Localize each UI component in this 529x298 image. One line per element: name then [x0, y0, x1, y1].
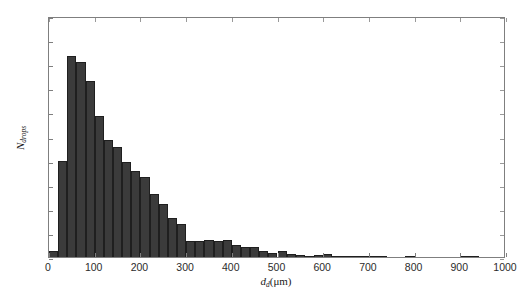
x-tick-mark — [232, 253, 233, 257]
histogram-bar — [360, 256, 369, 257]
histogram-bar — [305, 256, 314, 257]
y-tick-mark — [49, 18, 53, 19]
histogram-bar — [268, 253, 277, 257]
histogram-figure: 050100150200250300350400450500 010020030… — [0, 0, 529, 298]
histogram-bar — [460, 256, 469, 257]
x-tick-mark — [506, 253, 507, 257]
x-tick-mark-top — [186, 18, 187, 22]
x-tick-label: 600 — [313, 261, 331, 273]
y-tick-mark-right — [500, 66, 504, 67]
y-tick-mark-right — [500, 187, 504, 188]
histogram-bar — [58, 161, 67, 257]
histogram-bar — [49, 251, 58, 257]
x-tick-label: 500 — [268, 261, 286, 273]
x-tick-label: 1000 — [493, 261, 516, 273]
histogram-bars — [49, 18, 504, 257]
y-tick-mark — [49, 114, 53, 115]
y-tick-mark-right — [500, 90, 504, 91]
y-tick-mark-right — [500, 211, 504, 212]
x-tick-label: 800 — [405, 261, 423, 273]
y-axis-label-sub: drops — [19, 126, 28, 143]
histogram-bar — [86, 81, 95, 257]
histogram-bar — [214, 241, 223, 257]
histogram-bar — [186, 241, 195, 257]
x-tick-mark — [369, 253, 370, 257]
x-tick-label: 300 — [176, 261, 194, 273]
y-tick-mark-right — [500, 235, 504, 236]
histogram-bar — [223, 240, 232, 257]
histogram-bar — [378, 256, 387, 257]
x-tick-label: 900 — [451, 261, 469, 273]
x-tick-mark — [140, 253, 141, 257]
histogram-bar — [204, 240, 213, 257]
x-tick-label: 700 — [359, 261, 377, 273]
histogram-bar — [259, 251, 268, 257]
histogram-bar — [76, 62, 85, 257]
y-tick-mark — [49, 259, 53, 260]
y-tick-mark-right — [500, 18, 504, 19]
x-tick-label: 400 — [222, 261, 240, 273]
histogram-bar — [250, 247, 259, 257]
x-tick-mark-top — [460, 18, 461, 22]
x-tick-mark — [460, 253, 461, 257]
x-tick-mark — [415, 253, 416, 257]
histogram-bar — [314, 255, 323, 257]
y-tick-mark — [49, 211, 53, 212]
x-tick-mark — [95, 253, 96, 257]
x-tick-mark-top — [506, 18, 507, 22]
y-tick-mark-right — [500, 42, 504, 43]
histogram-bar — [241, 247, 250, 257]
histogram-bar — [351, 256, 360, 257]
y-tick-mark — [49, 90, 53, 91]
histogram-bar — [405, 256, 414, 257]
histogram-bar — [195, 241, 204, 257]
y-tick-mark-right — [500, 114, 504, 115]
histogram-bar — [332, 256, 341, 257]
y-tick-mark-right — [500, 259, 504, 260]
plot-area — [48, 17, 505, 258]
x-tick-label: 200 — [131, 261, 149, 273]
histogram-bar — [323, 254, 332, 257]
histogram-bar — [104, 140, 113, 257]
x-tick-mark-top — [95, 18, 96, 22]
histogram-bar — [369, 256, 378, 257]
y-tick-mark-right — [500, 163, 504, 164]
histogram-bar — [278, 251, 287, 257]
x-tick-mark-top — [140, 18, 141, 22]
x-tick-mark — [49, 253, 50, 257]
x-tick-mark-top — [232, 18, 233, 22]
x-axis-label-units: (μm) — [270, 275, 292, 287]
y-tick-mark — [49, 139, 53, 140]
y-axis-label-base: N — [14, 143, 26, 150]
y-tick-mark — [49, 42, 53, 43]
histogram-bar — [113, 147, 122, 257]
x-axis-label: dd(μm) — [260, 275, 291, 289]
histogram-bar — [469, 256, 478, 257]
x-tick-mark — [323, 253, 324, 257]
histogram-bar — [131, 171, 140, 257]
histogram-bar — [122, 162, 131, 257]
histogram-bar — [296, 255, 305, 257]
histogram-bar — [159, 204, 168, 257]
x-tick-mark — [186, 253, 187, 257]
histogram-bar — [67, 56, 76, 257]
histogram-bar — [177, 224, 186, 257]
y-tick-mark-right — [500, 139, 504, 140]
x-tick-mark-top — [415, 18, 416, 22]
histogram-bar — [95, 116, 104, 257]
x-tick-mark-top — [369, 18, 370, 22]
histogram-bar — [287, 254, 296, 257]
y-tick-mark — [49, 187, 53, 188]
x-tick-mark — [278, 253, 279, 257]
x-tick-mark-top — [278, 18, 279, 22]
histogram-bar — [168, 218, 177, 257]
histogram-bar — [341, 256, 350, 257]
y-tick-mark — [49, 163, 53, 164]
histogram-bar — [140, 177, 149, 257]
x-tick-label: 0 — [45, 261, 51, 273]
y-tick-mark — [49, 235, 53, 236]
histogram-bar — [232, 245, 241, 257]
y-tick-mark — [49, 66, 53, 67]
x-tick-label: 100 — [85, 261, 103, 273]
x-tick-mark-top — [323, 18, 324, 22]
